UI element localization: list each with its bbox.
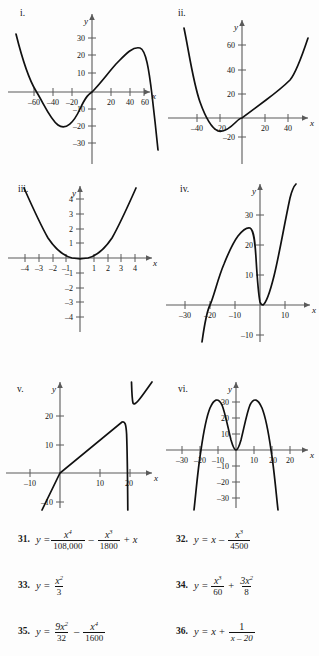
graph-ii-plot: –40 –20 20 40 60 40 20 –20 x y	[160, 0, 319, 170]
svg-text:1: 1	[69, 239, 73, 248]
svg-text:–10: –10	[23, 479, 36, 488]
svg-text:y: y	[251, 186, 256, 196]
operator: +	[124, 535, 130, 546]
numerator: 9x2	[53, 621, 70, 633]
graph-iii-plot: –4 –3 –2 –1 1 2 3 4 4 3 2 1 –1 –2 –3 –4 …	[0, 170, 160, 350]
svg-text:–3: –3	[64, 298, 73, 307]
operator: +	[219, 627, 225, 638]
graph-v-plot: –10 10 20 20 10 –10 x y	[0, 370, 160, 510]
svg-text:3: 3	[69, 210, 73, 219]
svg-text:–3: –3	[34, 264, 43, 273]
graph-ii-curve	[184, 28, 308, 131]
svg-text:–10: –10	[240, 331, 253, 340]
fraction-term: x3 1800	[98, 529, 120, 552]
operator: –	[219, 535, 224, 546]
variable-term: x	[211, 627, 216, 638]
denominator: 4500	[228, 540, 250, 551]
fraction-term: 3x2 8	[238, 575, 255, 598]
svg-text:–20: –20	[216, 478, 229, 487]
svg-text:10: 10	[281, 311, 289, 320]
svg-text:20: 20	[227, 90, 235, 99]
exercise-expression: y = x – x3 4500	[194, 529, 251, 552]
svg-text:4: 4	[133, 264, 137, 273]
svg-text:–30: –30	[175, 456, 188, 465]
svg-text:2: 2	[106, 264, 110, 273]
exercise-expression: y = x2 3	[36, 575, 66, 598]
fraction-term: x3 60	[211, 575, 224, 598]
variable-term: x	[211, 535, 216, 546]
svg-text:y: y	[227, 384, 232, 394]
svg-text:x: x	[309, 118, 314, 128]
svg-text:10: 10	[77, 69, 85, 78]
graph-panel-ii: ii. –40 –20 20 40	[160, 0, 319, 170]
svg-text:40: 40	[126, 98, 134, 107]
svg-text:y: y	[51, 384, 56, 394]
graph-panel-vi: vi. –30	[160, 370, 319, 510]
numerator: x2	[53, 575, 65, 587]
fraction-term: 9x2 32	[53, 621, 70, 644]
svg-text:20: 20	[286, 456, 294, 465]
lhs: y =	[194, 581, 208, 592]
svg-text:–60: –60	[27, 98, 40, 107]
svg-text:–10: –10	[228, 311, 241, 320]
numerator: x4	[88, 621, 100, 633]
exercise-number: 34.	[176, 581, 188, 591]
svg-text:20: 20	[261, 124, 269, 133]
fraction-term: x2 3	[53, 575, 65, 598]
graph-label-iii: iii.	[18, 184, 28, 194]
denominator: 8	[242, 586, 251, 597]
numerator: x3	[103, 529, 115, 541]
graph-v-curve-left	[42, 422, 128, 510]
svg-text:–1: –1	[64, 269, 73, 278]
exercise-number: 35.	[18, 627, 30, 637]
svg-text:60: 60	[227, 41, 235, 50]
graph-label-vi: vi.	[178, 384, 188, 394]
graph-i-plot: –60 –40 –20 20 40 60 30 20 10 –10 –20 –3…	[0, 0, 160, 170]
exercise-row-3: 35. y = 9x2 32 – x4 1600 36.	[0, 613, 319, 651]
svg-text:10: 10	[96, 479, 104, 488]
exercise-32[interactable]: 32. y = x – x3 4500	[176, 521, 251, 559]
svg-text:20: 20	[45, 412, 53, 421]
exercise-31[interactable]: 31. y = x4 108,000 – x3 1800 + x	[18, 521, 137, 559]
svg-text:–20: –20	[72, 122, 85, 131]
operator: +	[228, 581, 234, 592]
svg-text:–4: –4	[64, 313, 73, 322]
svg-text:y: y	[71, 188, 76, 198]
exercise-36[interactable]: 36. y = x + 1 x – 20	[176, 613, 256, 651]
graph-panel-iii: iii.	[0, 170, 160, 350]
svg-text:20: 20	[107, 98, 115, 107]
svg-text:–30: –30	[216, 494, 229, 503]
numerator: x3	[212, 575, 224, 587]
svg-text:3: 3	[119, 264, 123, 273]
exercise-expression: y = x4 108,000 – x3 1800 + x	[36, 529, 137, 552]
lhs: y =	[194, 535, 208, 546]
numerator: 3x2	[238, 575, 255, 587]
svg-text:40: 40	[227, 66, 235, 75]
graph-v-curve-right	[132, 382, 153, 404]
exercise-35[interactable]: 35. y = 9x2 32 – x4 1600	[18, 613, 106, 651]
exercise-expression: y = 9x2 32 – x4 1600	[36, 621, 106, 644]
graph-label-i: i.	[20, 8, 25, 18]
numerator: 1	[237, 621, 246, 633]
svg-text:–30: –30	[72, 139, 85, 148]
exercise-list: 31. y = x4 108,000 – x3 1800 + x	[0, 505, 319, 656]
svg-text:30: 30	[245, 211, 253, 220]
svg-text:y: y	[83, 16, 88, 26]
graph-panel-iv: iv. –30 –20 –10 10	[160, 170, 319, 350]
denominator: 32	[55, 632, 68, 643]
operator: –	[74, 627, 79, 638]
operator: –	[89, 535, 94, 546]
fraction-term: x3 4500	[228, 529, 250, 552]
exercise-34[interactable]: 34. y = x3 60 + 3x2 8	[176, 567, 256, 605]
svg-text:–20: –20	[222, 133, 235, 142]
denominator: 1800	[98, 540, 120, 551]
graph-panel-v: v. –10 10 20 20 10 –10	[0, 370, 160, 510]
exercise-number: 32.	[176, 535, 188, 545]
svg-text:10: 10	[245, 271, 253, 280]
svg-text:x: x	[311, 305, 316, 315]
svg-text:–40: –40	[46, 98, 59, 107]
graph-panel-i: i. –60	[0, 0, 160, 170]
svg-text:–2: –2	[64, 284, 73, 293]
svg-text:y: y	[233, 22, 238, 32]
exercise-33[interactable]: 33. y = x2 3	[18, 567, 66, 605]
